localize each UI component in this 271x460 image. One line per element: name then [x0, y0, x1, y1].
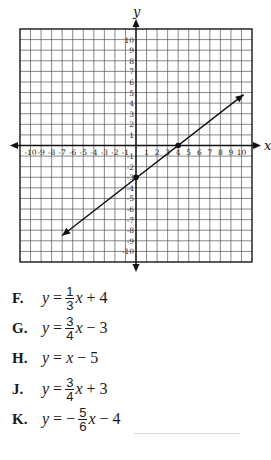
svg-text:-8: -8 — [127, 226, 135, 235]
fraction: 34 — [65, 315, 74, 342]
equation: y = 34 x − 3 — [42, 315, 108, 342]
svg-text:8: 8 — [218, 148, 223, 157]
choice-h[interactable]: H. y = x − 5 — [12, 343, 98, 373]
equation: y = − 56 x − 4 — [42, 406, 121, 433]
eq-sign: = — [53, 410, 62, 428]
coordinate-graph: -10-9-8-7-6-5-4-3-2-11234567891010987654… — [0, 0, 271, 280]
equation: y = 34 x + 3 — [42, 376, 108, 403]
svg-text:-10: -10 — [25, 148, 37, 157]
choice-g[interactable]: G. y = 34 x − 3 — [12, 313, 108, 343]
svg-text:-5: -5 — [127, 194, 135, 203]
denominator: 3 — [66, 299, 73, 312]
svg-text:7: 7 — [207, 148, 212, 157]
numerator: 1 — [65, 285, 74, 299]
choice-letter: H. — [12, 350, 42, 367]
eq-sign: = — [53, 319, 62, 337]
eq-sign: = — [53, 349, 62, 367]
svg-text:1: 1 — [144, 148, 149, 157]
plotted-line — [62, 95, 243, 236]
fraction: 13 — [65, 285, 74, 312]
svg-text:-7: -7 — [127, 216, 135, 225]
denominator: 4 — [66, 329, 73, 342]
equation: y = x − 5 — [42, 349, 98, 367]
svg-text:5: 5 — [186, 148, 191, 157]
svg-text:2: 2 — [155, 148, 160, 157]
numerator: 3 — [65, 315, 74, 329]
svg-text:-5: -5 — [80, 148, 88, 157]
svg-text:-10: -10 — [122, 247, 134, 256]
eq-var: x — [88, 410, 95, 428]
eq-rest: − 4 — [100, 410, 121, 428]
svg-text:-9: -9 — [37, 148, 45, 157]
divider-line — [134, 433, 240, 434]
svg-text:-8: -8 — [48, 148, 56, 157]
eq-lhs: y — [42, 410, 49, 428]
svg-text:10: 10 — [124, 36, 134, 45]
svg-text:7: 7 — [129, 67, 134, 76]
eq-var: x — [66, 349, 73, 367]
equation: y = 13 x + 4 — [42, 285, 108, 312]
eq-lhs: y — [42, 380, 49, 398]
svg-text:-3: -3 — [101, 148, 109, 157]
choice-letter: K. — [12, 411, 42, 428]
svg-text:-4: -4 — [90, 148, 98, 157]
x-axis-label: x — [264, 138, 271, 153]
eq-rest: + 4 — [86, 289, 107, 307]
denominator: 4 — [66, 390, 73, 403]
numerator: 3 — [65, 376, 74, 390]
eq-rest: + 3 — [86, 380, 107, 398]
eq-lhs: y — [42, 349, 49, 367]
numerator: 5 — [78, 406, 87, 420]
svg-text:8: 8 — [129, 57, 134, 66]
svg-text:10: 10 — [237, 148, 247, 157]
svg-text:-7: -7 — [59, 148, 67, 157]
svg-text:9: 9 — [229, 148, 234, 157]
choice-letter: F. — [12, 290, 42, 307]
svg-text:-6: -6 — [69, 148, 77, 157]
svg-text:9: 9 — [129, 46, 134, 55]
choice-letter: G. — [12, 320, 42, 337]
eq-sign: = — [53, 289, 62, 307]
denominator: 6 — [79, 420, 86, 433]
eq-sign: = — [53, 380, 62, 398]
choice-f[interactable]: F. y = 13 x + 4 — [12, 283, 108, 313]
eq-rest: − 5 — [77, 349, 98, 367]
svg-text:-1: -1 — [127, 152, 134, 161]
svg-text:2: 2 — [129, 120, 134, 129]
y-axis-label: y — [132, 4, 141, 19]
svg-text:3: 3 — [129, 110, 134, 119]
svg-text:-2: -2 — [111, 148, 119, 157]
choice-k[interactable]: K. y = − 56 x − 4 — [12, 404, 121, 434]
eq-var: x — [75, 319, 82, 337]
svg-text:6: 6 — [129, 78, 134, 87]
fraction: 56 — [78, 406, 87, 433]
eq-rest: − 3 — [86, 319, 107, 337]
axes — [10, 19, 261, 272]
choice-j[interactable]: J. y = 34 x + 3 — [12, 374, 108, 404]
svg-text:-2: -2 — [127, 163, 135, 172]
svg-text:-9: -9 — [127, 237, 135, 246]
svg-text:-6: -6 — [127, 205, 135, 214]
fraction: 34 — [65, 376, 74, 403]
svg-text:1: 1 — [129, 131, 134, 140]
eq-var: x — [75, 289, 82, 307]
eq-lhs: y — [42, 319, 49, 337]
eq-lhs: y — [42, 289, 49, 307]
svg-text:4: 4 — [129, 99, 134, 108]
eq-var: x — [75, 380, 82, 398]
svg-text:6: 6 — [197, 148, 202, 157]
svg-text:5: 5 — [129, 89, 134, 98]
choice-letter: J. — [12, 381, 42, 398]
svg-text:4: 4 — [176, 148, 181, 157]
eq-neg-sign: − — [66, 410, 75, 428]
